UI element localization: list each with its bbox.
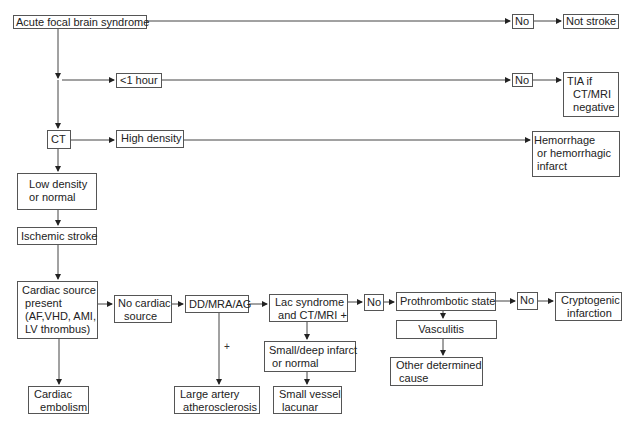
node-prothrombotic-state: Prothrombotic state [396, 292, 496, 311]
node-cardiac-embolism: Cardiac embolism [28, 386, 89, 414]
edge-label-plus: + [224, 341, 230, 352]
node-lac-syndrome: Lac syndrome and CT/MRI + [269, 294, 348, 322]
node-cardiac-source-present: Cardiac source present (AF,VHD, AMI, LV … [17, 281, 98, 339]
node-low-density-or-normal: Low density or normal [17, 173, 97, 210]
node-no-2: No [512, 73, 533, 87]
node-other-determined-cause: Other determined cause [390, 357, 483, 386]
node-small-vessel-lacunar: Small vessel lacunar [273, 386, 342, 414]
node-tia: TIA if CT/MRI negative [563, 72, 619, 117]
node-large-artery-atherosclerosis: Large artery atherosclerosis [174, 386, 260, 414]
node-acute-focal-brain-syndrome: Acute focal brain syndrome [13, 15, 147, 29]
node-ct: CT [47, 130, 71, 149]
node-vasculitis: Vasculitis [396, 320, 497, 339]
node-dd-mra-ag: DD/MRA/AG [185, 295, 249, 313]
node-hemorrhage: Hemorrhage or hemorrhagic infarct [532, 131, 620, 177]
node-cryptogenic-infarction: Cryptogenic infarction [555, 292, 622, 321]
node-no-4: No [517, 292, 538, 310]
node-not-stroke: Not stroke [563, 14, 619, 29]
node-high-density: High density [116, 130, 184, 148]
node-no-cardiac-source: No cardiac source [114, 295, 172, 323]
node-small-deep-infarct: Small/deep infarct or normal [264, 341, 356, 372]
node-no-1: No [512, 14, 534, 29]
node-ischemic-stroke: Ischemic stroke [17, 227, 97, 245]
node-less-than-1-hour: <1 hour [116, 73, 162, 88]
node-no-3: No [364, 294, 384, 311]
